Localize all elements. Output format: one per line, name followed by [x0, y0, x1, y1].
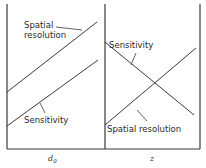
label-resolution-d0: resolution	[24, 30, 66, 40]
leader-sensitivity-d0	[40, 103, 45, 113]
x-axis-label-z: z	[149, 154, 155, 163]
curve-spatial-resolution-z	[105, 48, 196, 125]
diagram-canvas: Spatial resolution Sensitivity Sensitivi…	[0, 0, 206, 168]
label-sensitivity-z: Sensitivity	[109, 40, 153, 50]
x-axis-label-d0: d0	[48, 154, 57, 164]
label-spatial-d0: Spatial	[24, 20, 53, 30]
curve-sensitivity-z	[105, 42, 194, 115]
label-sensitivity-d0: Sensitivity	[24, 115, 68, 125]
leader-sensitivity-z	[131, 53, 136, 65]
leader-spatial-resolution-z	[137, 110, 147, 121]
label-spatial-resolution-z: Spatial resolution	[107, 124, 181, 134]
